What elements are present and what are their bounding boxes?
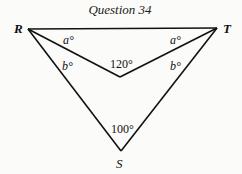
segment-R-inner (28, 29, 120, 77)
geometry-diagram: Question 34 R T S a° a° b° b° 120° 100° (0, 0, 242, 174)
segment-T-inner (120, 28, 217, 77)
angle-label-a-right: a° (170, 33, 181, 47)
vertex-label-R: R (13, 21, 23, 36)
segment-RT (28, 28, 217, 29)
segment-TS (121, 28, 217, 151)
angle-label-S: 100° (111, 122, 134, 136)
vertex-label-S: S (116, 156, 123, 171)
segment-RS (28, 29, 121, 151)
angle-label-a-left: a° (63, 33, 74, 47)
angle-label-b-right: b° (170, 59, 181, 73)
question-title: Question 34 (88, 2, 152, 17)
angle-label-inner: 120° (110, 57, 133, 71)
angle-label-b-left: b° (62, 59, 73, 73)
vertex-label-T: T (223, 21, 232, 36)
